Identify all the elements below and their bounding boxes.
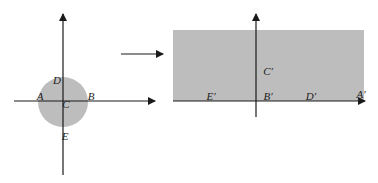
left-figure <box>14 14 155 175</box>
label-c-prime: C′ <box>263 66 273 77</box>
label-a-prime: A′ <box>356 89 365 100</box>
diagram-canvas: D A C B E C′ E′ B′ D′ A′ <box>0 0 378 183</box>
label-d: D <box>53 75 61 86</box>
label-e: E <box>62 131 69 142</box>
label-d-prime: D′ <box>306 91 316 102</box>
label-b-prime: B′ <box>263 91 272 102</box>
label-c: C <box>62 99 69 110</box>
label-a: A <box>37 91 44 102</box>
label-b: B <box>88 91 95 102</box>
label-e-prime: E′ <box>206 91 215 102</box>
